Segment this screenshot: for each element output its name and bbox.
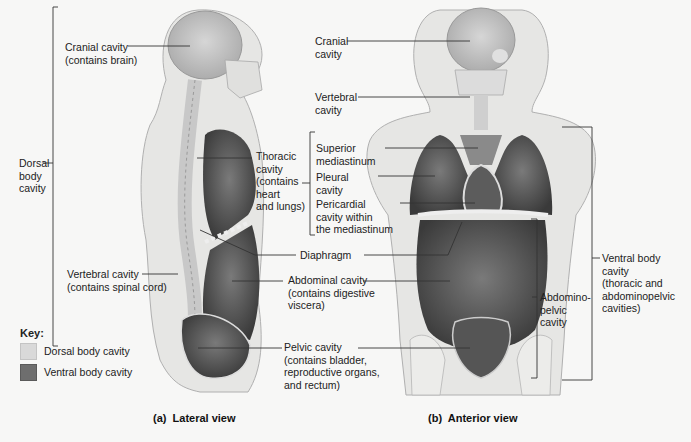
label-cranial-cavity-lateral: Cranial cavity (contains brain) <box>65 41 137 66</box>
label-pelvic-cavity: Pelvic cavity (contains bladder, reprodu… <box>284 341 380 391</box>
caption-lateral-view: (a) Lateral view <box>153 412 236 424</box>
anterior-vertebral-cavity <box>474 95 488 130</box>
key-title: Key: <box>20 327 44 339</box>
key-swatch-ventral <box>20 364 37 381</box>
key-label-ventral: Ventral body cavity <box>44 366 132 379</box>
label-pleural-cavity: Pleural cavity <box>316 171 349 196</box>
key-label-dorsal: Dorsal body cavity <box>44 345 130 358</box>
label-pericardial-cavity: Pericardial cavity within the mediastinu… <box>316 198 393 236</box>
label-superior-mediastinum: Superior mediastinum <box>316 142 376 167</box>
anterior-cranial-cavity <box>447 8 515 72</box>
key-swatch-dorsal <box>20 343 37 360</box>
label-vertebral-cavity-anterior: Vertebral cavity <box>315 91 357 116</box>
label-ventral-body-cavity: Ventral body cavity (thoracic and abdomi… <box>602 252 675 315</box>
label-thoracic-cavity: Thoracic cavity (contains heart and lung… <box>256 150 305 213</box>
caption-anterior-view: (b) Anterior view <box>428 412 517 424</box>
lateral-figure <box>141 10 264 392</box>
label-abdominopelvic-cavity: Abdomino- pelvic cavity <box>540 291 591 329</box>
label-abdominal-cavity: Abdominal cavity (contains digestive vis… <box>288 274 375 312</box>
label-vertebral-cavity-lateral: Vertebral cavity (contains spinal cord) <box>67 268 167 293</box>
label-diaphragm: Diaphragm <box>300 249 351 262</box>
anterior-figure <box>367 8 596 395</box>
label-cranial-cavity-anterior: Cranial cavity <box>315 35 348 60</box>
label-dorsal-body-cavity: Dorsal body cavity <box>19 157 49 195</box>
